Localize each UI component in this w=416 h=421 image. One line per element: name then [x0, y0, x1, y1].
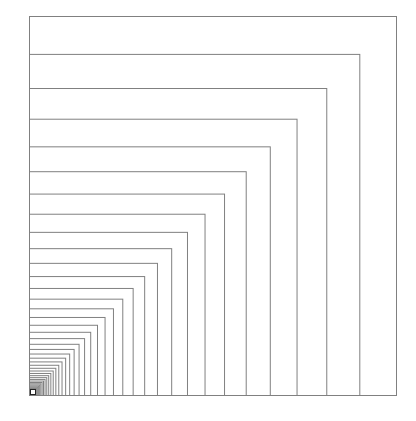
- nested-rectangles-figure: [0, 0, 416, 421]
- nested-squares-diagram: [0, 0, 416, 421]
- corner-marker: [31, 390, 36, 395]
